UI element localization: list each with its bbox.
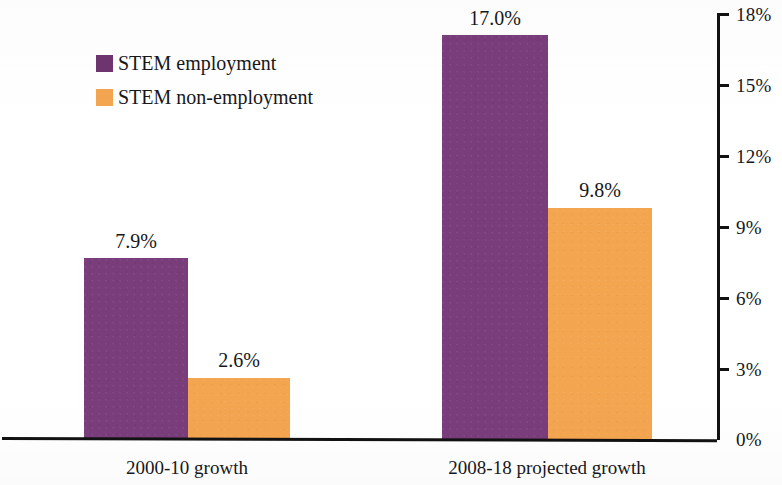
- legend-swatch-purple-icon: [96, 55, 113, 72]
- x-axis-label-group1: 2000-10 growth: [67, 458, 307, 477]
- y-tick-label-0: 0%: [736, 430, 762, 449]
- y-tick-label-6: 6%: [736, 289, 762, 308]
- legend-swatch-orange-icon: [96, 89, 113, 106]
- legend-label-stem-employment: STEM employment: [118, 53, 276, 73]
- y-tick-9: [717, 226, 729, 229]
- legend-label-stem-non-employment: STEM non-employment: [118, 87, 313, 107]
- value-label-group2-stem-employment: 17.0%: [442, 8, 548, 28]
- value-label-group1-stem-non-employment: 2.6%: [188, 350, 290, 370]
- bar-chart: STEM employment STEM non-employment 7.9%…: [0, 0, 782, 485]
- legend-item-stem-employment: STEM employment: [96, 46, 313, 80]
- y-tick-6: [717, 297, 729, 300]
- value-label-group2-stem-non-employment: 9.8%: [548, 180, 652, 200]
- x-axis-label-group2: 2008-18 projected growth: [427, 458, 667, 477]
- y-tick-3: [717, 368, 729, 371]
- y-tick-12: [717, 155, 729, 158]
- plot-area: STEM employment STEM non-employment 7.9%…: [0, 0, 782, 485]
- y-tick-18: [717, 13, 729, 16]
- y-tick-15: [717, 84, 729, 87]
- y-tick-label-3: 3%: [736, 360, 762, 379]
- y-tick-label-9: 9%: [736, 218, 762, 237]
- legend-item-stem-non-employment: STEM non-employment: [96, 80, 313, 114]
- bar-group1-stem-non-employment: [188, 378, 290, 439]
- y-tick-label-12: 12%: [736, 147, 771, 166]
- bar-group1-stem-employment: [84, 258, 188, 439]
- value-label-group1-stem-employment: 7.9%: [84, 231, 188, 251]
- y-tick-label-15: 15%: [736, 76, 771, 95]
- bar-group2-stem-non-employment: [548, 208, 652, 439]
- chart-legend: STEM employment STEM non-employment: [96, 46, 313, 114]
- y-tick-label-18: 18%: [736, 5, 771, 24]
- bar-group2-stem-employment: [442, 35, 548, 439]
